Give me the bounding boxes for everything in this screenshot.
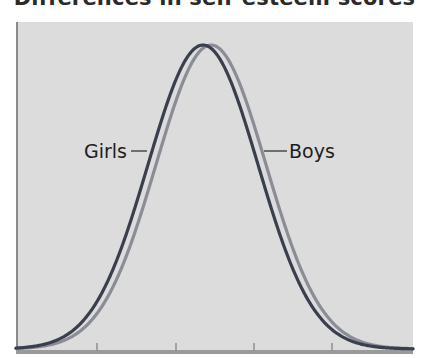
- boys-label: Boys: [289, 140, 335, 162]
- distribution-chart: Girls Boys: [0, 0, 429, 358]
- x-axis-bar: [16, 350, 413, 354]
- plot-background: [16, 22, 413, 352]
- girls-label: Girls: [84, 140, 127, 162]
